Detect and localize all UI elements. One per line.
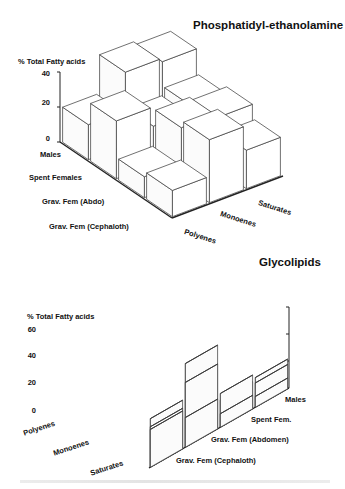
caption-fragment bbox=[20, 480, 330, 483]
depth-label: Grav. Fem (Abdo) bbox=[42, 197, 104, 206]
y-axis-label: % Total Fatty acids bbox=[18, 57, 85, 66]
bar3d-plot-top bbox=[0, 0, 345, 245]
depth-label: Spent Females bbox=[29, 173, 82, 182]
bar3d-plot-bottom bbox=[0, 245, 345, 489]
y-tick: 20 bbox=[36, 98, 50, 107]
y-tick: 0 bbox=[36, 134, 50, 143]
depth-label: Spent Fem. bbox=[251, 415, 291, 424]
depth-label: Grav. Fem (Abdomen) bbox=[211, 435, 289, 444]
y-tick: 20 bbox=[22, 378, 36, 387]
chart-phosphatidyl-ethanolamine: Phosphatidyl-ethanolamine % Total Fatty … bbox=[0, 0, 345, 245]
depth-label: Males bbox=[285, 395, 306, 404]
depth-label: Males bbox=[40, 150, 61, 159]
y-tick: 40 bbox=[36, 69, 50, 78]
y-axis-label: % Total Fatty acids bbox=[27, 312, 94, 321]
depth-label: Grav. Fem (Cephaloth) bbox=[176, 456, 256, 465]
chart-title: Glycolipids bbox=[259, 256, 321, 268]
chart-title: Phosphatidyl-ethanolamine bbox=[193, 19, 343, 31]
y-tick: 60 bbox=[22, 325, 36, 334]
depth-label: Grav. Fem (Cephaloth) bbox=[49, 222, 129, 231]
y-tick: 40 bbox=[22, 351, 36, 360]
y-tick: 0 bbox=[22, 406, 36, 415]
chart-glycolipids: Glycolipids % Total Fatty acids 60 40 20… bbox=[0, 245, 345, 489]
